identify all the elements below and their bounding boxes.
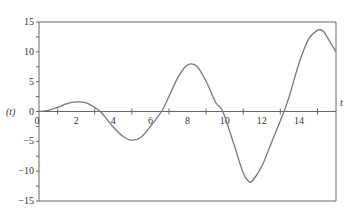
y-axis-label: (t) [6, 106, 16, 118]
plot-frame [39, 22, 336, 201]
y-tick-label: 15 [24, 16, 34, 27]
x-tick-label: 0 [35, 115, 40, 126]
y-tick-label: 0 [29, 106, 34, 117]
x-axis-label: t [340, 97, 343, 108]
chart: 151050−5−10−1502468101214t(t) [0, 0, 347, 216]
y-tick-label: −10 [18, 165, 34, 176]
y-tick-label: 10 [24, 46, 34, 57]
x-tick-label: 4 [111, 115, 116, 126]
y-tick-label: −15 [18, 195, 34, 206]
y-tick-label: 5 [29, 76, 34, 87]
x-tick-label: 14 [294, 115, 304, 126]
x-tick-label: 2 [74, 115, 79, 126]
x-tick-label: 12 [257, 115, 267, 126]
x-tick-label: 8 [185, 115, 190, 126]
data-line [39, 30, 336, 183]
y-tick-label: −5 [23, 135, 34, 146]
